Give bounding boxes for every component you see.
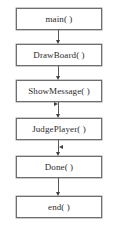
arrow-down-icon: [56, 40, 60, 44]
flow-node-done[interactable]: Done( ): [16, 156, 102, 178]
loop-left-vertical-segment: [0, 1, 1, 82]
arrow-down-icon: [56, 152, 60, 156]
flow-node-main[interactable]: main( ): [16, 8, 102, 30]
arrow-left-icon: [59, 145, 63, 149]
loop-right-vertical-segment: [0, 84, 1, 120]
flow-node-label: DrawBoard( ): [33, 51, 84, 60]
flow-node-label: Done( ): [45, 163, 73, 172]
edge-drawboard-to-showmessage: [58, 66, 59, 76]
flow-node-showmessage[interactable]: ShowMessage( ): [16, 80, 102, 102]
edge-done-to-end: [58, 178, 59, 192]
arrow-down-icon: [56, 192, 60, 196]
arrow-down-icon: [56, 114, 60, 118]
edge-showmessage-to-judgeplayer: [58, 102, 59, 114]
flow-node-label: main( ): [46, 15, 73, 24]
flowchart-canvas: main( ) DrawBoard( ) ShowMessage( ) Judg…: [0, 0, 122, 241]
flow-node-label: end( ): [48, 203, 70, 212]
arrow-right-icon: [54, 102, 58, 106]
loop-left-bottom-segment: [0, 0, 51, 1]
flow-node-label: JudgePlayer( ): [32, 125, 86, 134]
flow-node-end[interactable]: end( ): [16, 196, 102, 218]
flow-node-judgeplayer[interactable]: JudgePlayer( ): [16, 118, 102, 140]
arrow-down-icon: [56, 76, 60, 80]
flow-node-drawboard[interactable]: DrawBoard( ): [16, 44, 102, 66]
edge-main-to-drawboard: [58, 30, 59, 40]
flow-node-label: ShowMessage( ): [28, 87, 90, 96]
